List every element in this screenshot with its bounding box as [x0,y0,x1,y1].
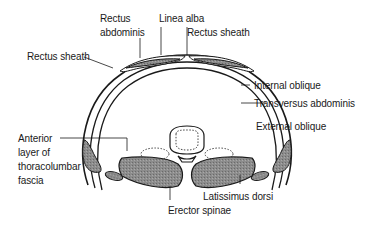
label-anterior-layer-1: Anterior [18,133,52,144]
label-rectus-abdominis-1: Rectus [100,13,131,24]
label-linea-alba: Linea alba [159,13,204,24]
vertebra [141,126,233,162]
label-anterior-layer-4: fascia [18,175,44,186]
anatomy-diagram: Rectus abdominis Linea alba Rectus sheat… [0,0,374,226]
label-rectus-sheath-left: Rectus sheath [27,51,90,62]
label-erector-spinae: Erector spinae [168,205,231,216]
label-rectus-abdominis-2: abdominis [100,27,145,38]
rectus-abdominis [120,56,254,72]
label-latissimus-dorsi: Latissimus dorsi [203,191,273,202]
label-transversus-abdominis: Transversus abdominis [254,98,355,109]
label-internal-oblique: Internal oblique [254,80,321,91]
label-anterior-layer-2: layer of [18,147,50,158]
label-rectus-sheath-right: Rectus sheath [187,27,250,38]
label-external-oblique: External oblique [256,121,326,132]
label-anterior-layer-3: thoracolumbar [18,161,81,172]
